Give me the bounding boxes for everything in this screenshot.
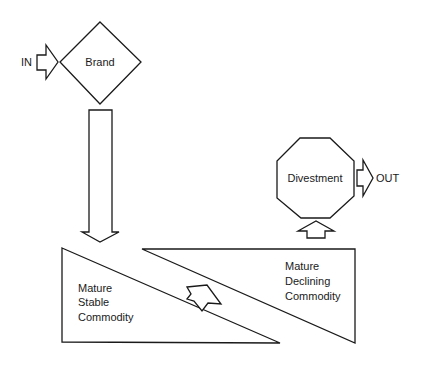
up-arrow-icon [298, 221, 334, 238]
lifecycle-diagram: IN Brand Mature Stable Commodity Mature … [0, 0, 426, 366]
mature-stable-line-2: Stable [78, 296, 109, 308]
brand-label: Brand [85, 56, 114, 68]
in-label: IN [21, 56, 32, 68]
divestment-label: Divestment [287, 172, 342, 184]
out-arrow-icon [357, 160, 373, 196]
down-arrow-icon [82, 110, 119, 242]
mature-declining-line-1: Mature [285, 260, 319, 272]
mature-declining-line-2: Declining [285, 275, 330, 287]
mature-stable-line-3: Commodity [78, 311, 134, 323]
in-arrow-icon [37, 45, 58, 79]
mature-declining-line-3: Commodity [285, 290, 341, 302]
mature-stable-line-1: Mature [78, 282, 112, 294]
out-label: OUT [376, 172, 400, 184]
